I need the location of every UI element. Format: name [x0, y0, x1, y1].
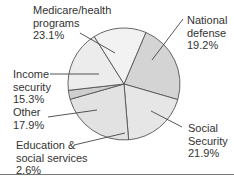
label-medicare-line1: Medicare/health — [33, 4, 111, 17]
bottom-rule — [0, 174, 234, 175]
label-other-line1: Other — [13, 106, 44, 119]
label-medicare: Medicare/health programs 23.1% — [33, 4, 111, 42]
label-social-security-line1: Social — [188, 122, 228, 135]
label-income-line2: security — [13, 81, 51, 94]
label-medicare-value: 23.1% — [33, 29, 111, 42]
label-income: Income security 15.3% — [13, 68, 51, 106]
label-income-line1: Income — [13, 68, 51, 81]
label-education: Education & social services 2.6% — [16, 139, 88, 177]
label-other-value: 17.9% — [13, 119, 44, 132]
label-other: Other 17.9% — [13, 106, 44, 131]
label-social-security-value: 21.9% — [188, 147, 228, 160]
label-defense: National defense 19.2% — [187, 14, 227, 52]
label-social-security-line2: Security — [188, 135, 228, 148]
label-education-line1: Education & — [16, 139, 88, 152]
label-education-line2: social services — [16, 152, 88, 165]
label-defense-line2: defense — [187, 27, 227, 40]
label-medicare-line2: programs — [33, 17, 111, 30]
label-social-security: Social Security 21.9% — [188, 122, 228, 160]
label-income-value: 15.3% — [13, 93, 51, 106]
label-defense-value: 19.2% — [187, 39, 227, 52]
label-defense-line1: National — [187, 14, 227, 27]
